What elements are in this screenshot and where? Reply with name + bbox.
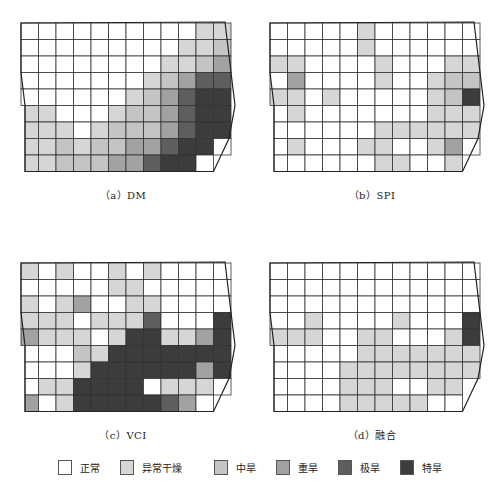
legend-item-abnormally-dry: 异常干燥: [120, 458, 182, 476]
legend-swatch-abnormally-dry: [120, 460, 134, 475]
county-cell: [161, 296, 179, 313]
county-cell: [393, 139, 411, 156]
county-cell: [358, 362, 376, 379]
county-cell: [288, 329, 306, 346]
county-cell: [39, 296, 57, 313]
county-cell: [428, 73, 446, 90]
county-cell: [393, 23, 411, 40]
county-cell: [375, 40, 393, 57]
county-cell: [288, 73, 306, 90]
county-cell: [179, 280, 197, 297]
county-cell: [126, 89, 144, 106]
county-cell: [393, 346, 411, 363]
county-cell: [91, 379, 109, 396]
county-cell: [21, 40, 39, 57]
county-cell: [463, 346, 481, 363]
county-cell: [109, 155, 127, 172]
county-cell: [74, 395, 92, 412]
county-cell: [56, 280, 74, 297]
county-cell: [340, 122, 358, 139]
county-cell: [323, 280, 341, 297]
county-cell: [270, 280, 288, 297]
county-cell: [340, 263, 358, 280]
county-cell: [463, 362, 481, 379]
county-cell: [144, 122, 162, 139]
county-cell: [39, 89, 57, 106]
county-cell: [375, 329, 393, 346]
county-cell: [410, 379, 428, 396]
county-cell: [196, 329, 214, 346]
county-cell: [375, 263, 393, 280]
county-cell: [358, 346, 376, 363]
county-cell: [56, 73, 74, 90]
county-cell: [428, 313, 446, 330]
county-cell: [214, 362, 232, 379]
county-cell: [196, 362, 214, 379]
county-cell: [21, 280, 39, 297]
county-cell: [305, 89, 323, 106]
county-cell: [56, 155, 74, 172]
county-cell: [179, 296, 197, 313]
county-cell: [126, 155, 144, 172]
county-cell: [288, 263, 306, 280]
county-cell: [463, 263, 481, 280]
county-cell: [126, 73, 144, 90]
county-cell: [74, 379, 92, 396]
county-cell: [56, 379, 74, 396]
county-cell: [340, 73, 358, 90]
county-cell: [445, 89, 463, 106]
county-cell: [196, 139, 214, 156]
county-cell: [144, 23, 162, 40]
county-cell: [179, 139, 197, 156]
county-cell: [288, 313, 306, 330]
county-cell: [39, 56, 57, 73]
county-cell: [91, 155, 109, 172]
county-cell: [340, 395, 358, 412]
county-cell: [196, 155, 214, 172]
county-cell: [410, 23, 428, 40]
county-cell: [179, 362, 197, 379]
county-cell: [109, 280, 127, 297]
caption-fusion: （d）融合: [252, 427, 492, 442]
county-cell: [428, 155, 446, 172]
county-cell: [305, 122, 323, 139]
county-cell: [179, 346, 197, 363]
legend-swatch-normal: [58, 460, 72, 475]
county-cell: [410, 139, 428, 156]
county-cell: [393, 73, 411, 90]
county-cell: [74, 313, 92, 330]
county-cell: [126, 346, 144, 363]
county-cell: [144, 139, 162, 156]
county-cell: [358, 56, 376, 73]
county-cell: [305, 139, 323, 156]
county-cell: [288, 379, 306, 396]
county-cell: [74, 139, 92, 156]
county-cell: [91, 56, 109, 73]
county-cell: [323, 73, 341, 90]
county-cell: [179, 23, 197, 40]
county-cell: [463, 23, 481, 40]
county-cell: [161, 23, 179, 40]
county-cell: [39, 346, 57, 363]
county-cell: [340, 40, 358, 57]
county-cell: [288, 296, 306, 313]
county-cell: [358, 296, 376, 313]
county-cell: [358, 313, 376, 330]
county-cell: [196, 122, 214, 139]
county-cell: [161, 106, 179, 123]
legend-swatch-extreme-drought: [338, 460, 352, 475]
county-cell: [323, 139, 341, 156]
county-cell: [305, 313, 323, 330]
county-cell: [463, 106, 481, 123]
county-cell: [39, 40, 57, 57]
county-cell: [161, 122, 179, 139]
county-cell: [340, 346, 358, 363]
county-cell: [144, 106, 162, 123]
county-cell: [305, 73, 323, 90]
county-cell: [428, 23, 446, 40]
county-cell: [126, 56, 144, 73]
county-cell: [445, 155, 463, 172]
legend-swatch-exceptional-drought: [400, 460, 414, 475]
county-cell: [393, 89, 411, 106]
county-cell: [428, 139, 446, 156]
